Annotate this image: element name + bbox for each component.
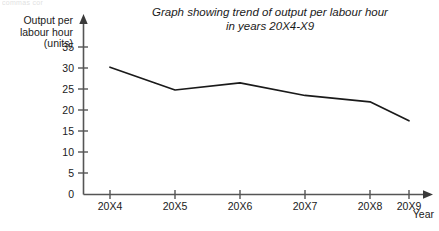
plot-area: 35 30 25 20 15 10 5 0 20X4 20X5 20X6 20X… xyxy=(0,0,439,231)
x-tick-label-20X7: 20X7 xyxy=(282,201,328,212)
y-tick-label-10: 10 xyxy=(56,147,74,158)
y-tick-label-20: 20 xyxy=(56,105,74,116)
y-tick-label-15: 15 xyxy=(56,126,74,137)
x-tick-label-20X6: 20X6 xyxy=(217,201,263,212)
y-axis-arrowhead-icon xyxy=(79,14,87,24)
y-tick-label-0: 0 xyxy=(56,189,74,200)
data-series-line xyxy=(110,67,409,121)
x-tick-label-20X4: 20X4 xyxy=(87,201,133,212)
y-axis xyxy=(79,14,87,195)
y-tick-label-5: 5 xyxy=(56,168,74,179)
y-tick-label-30: 30 xyxy=(56,63,74,74)
chart-screenshot: commas cor Graph showing trend of output… xyxy=(0,0,439,231)
x-axis xyxy=(84,190,434,198)
y-tick-label-25: 25 xyxy=(56,84,74,95)
x-axis-arrowhead-icon xyxy=(423,190,433,198)
x-tick-label-20X5: 20X5 xyxy=(152,201,198,212)
y-tick-label-35: 35 xyxy=(56,42,74,53)
x-axis-label: Year xyxy=(413,209,434,220)
